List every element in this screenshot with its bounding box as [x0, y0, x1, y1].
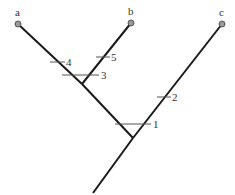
taxon-label-c: c: [219, 6, 224, 18]
taxon-label-a: a: [15, 6, 20, 18]
mark-label-4: 4: [66, 56, 72, 68]
mark-label-3: 3: [101, 69, 107, 81]
phylogenetic-tree: a b c 4 5 3 1 2: [0, 0, 235, 195]
mark-label-2: 2: [172, 91, 178, 103]
tip-b-icon: [128, 20, 134, 26]
branch-c: [133, 24, 222, 138]
tip-c-icon: [219, 21, 225, 27]
taxon-label-b: b: [128, 5, 134, 17]
mark-label-1: 1: [153, 118, 159, 130]
tip-a-icon: [15, 21, 21, 27]
mark-label-5: 5: [111, 51, 117, 63]
branch-ab: [82, 84, 133, 138]
branch-root: [93, 138, 133, 193]
